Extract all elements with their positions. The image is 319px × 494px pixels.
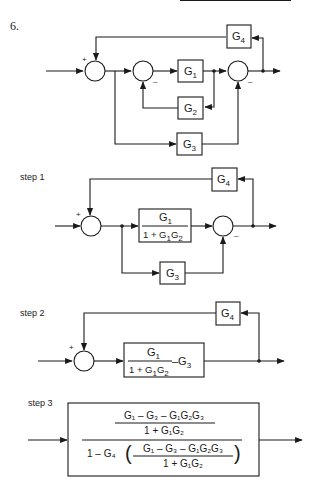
step3-denominator-inner-bottom: 1 + G₁G₂	[163, 458, 203, 469]
step1-label: step 1	[20, 172, 45, 182]
minus-sign-2: –	[248, 77, 253, 86]
step3-numerator-bottom: 1 + G₁G₂	[144, 425, 184, 436]
step1-diagram: + G1 1 + G1G2 – G4 G3	[55, 168, 276, 284]
step3-denominator-prefix: 1 – G₄	[87, 448, 116, 459]
step2-label: step 2	[20, 308, 45, 318]
step2-summing-junction	[74, 351, 94, 371]
plus-sign: +	[82, 55, 87, 64]
step1-summing-junction-1	[81, 216, 101, 236]
svg-text:+: +	[76, 210, 81, 219]
block-diagram-canvas: 6. + – G1 G2 –	[0, 0, 319, 494]
step1-summing-junction-2	[213, 216, 233, 236]
step3-numerator-top: G₁ – G₃ – G₁G₂G₃	[124, 410, 204, 421]
step3-label: step 3	[28, 398, 53, 408]
original-diagram: + – G1 G2 – G4 G	[46, 25, 280, 155]
summing-junction-1	[85, 61, 105, 81]
svg-text:(: (	[125, 442, 132, 464]
summing-junction-2	[133, 61, 153, 81]
step2-diagram: + G1 1 + G1G2 –G3 G4	[38, 302, 284, 378]
svg-text:+: +	[69, 343, 74, 352]
step3-denominator-inner-top: G₁ – G₃ – G₁G₂G₃	[143, 443, 223, 454]
svg-text:): )	[234, 442, 241, 464]
summing-junction-3	[228, 61, 248, 81]
svg-text:–: –	[234, 231, 239, 240]
problem-number: 6.	[10, 19, 19, 33]
step3-diagram: G₁ – G₃ – G₁G₂G₃ 1 + G₁G₂ 1 – G₄ ( G₁ – …	[28, 403, 302, 476]
minus-sign-1: –	[153, 77, 158, 86]
